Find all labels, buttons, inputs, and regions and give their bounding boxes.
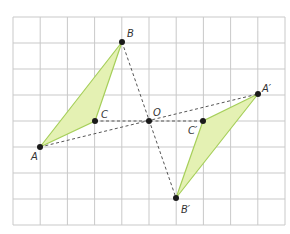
point-a2 — [255, 91, 261, 97]
point-o — [146, 118, 152, 124]
point-b2 — [173, 195, 179, 201]
point-c2 — [200, 118, 206, 124]
label-b: B — [127, 28, 134, 39]
label-a-prime: A′ — [261, 83, 272, 94]
label-c-prime: C′ — [188, 125, 198, 136]
label-c: C — [101, 109, 108, 120]
point-a — [37, 144, 43, 150]
label-o: O — [153, 107, 161, 118]
point-c — [92, 118, 98, 124]
reflection-diagram: B C A O A′ C′ B′ — [0, 0, 290, 234]
triangle-a-prime-b-prime-c-prime — [176, 94, 258, 198]
point-b — [119, 39, 125, 45]
label-a: A — [30, 151, 38, 162]
label-b-prime: B′ — [181, 204, 191, 215]
